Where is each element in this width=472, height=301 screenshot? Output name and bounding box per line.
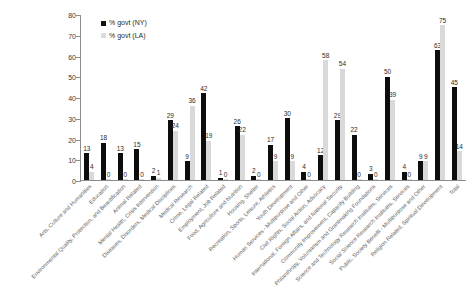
- bar-value-label: 42: [200, 86, 207, 93]
- bar-value-label: 2: [152, 168, 156, 175]
- category-label: Arts, Culture and Humanities: [39, 184, 94, 239]
- bar-ny: 22: [352, 135, 357, 180]
- y-tick-label: 60: [68, 53, 76, 60]
- bar-la: 0: [223, 179, 228, 180]
- bar-la: 9: [290, 161, 295, 180]
- bar-la: 19: [206, 141, 211, 180]
- bar-ny: 18: [101, 143, 106, 180]
- x-axis-line: [80, 180, 466, 181]
- bar-group: 179: [265, 15, 282, 180]
- bar-value-label: 1: [157, 170, 161, 177]
- bar-group: 10: [215, 15, 232, 180]
- bar-group: 4219: [198, 15, 215, 180]
- bar-value-label: 75: [439, 18, 446, 25]
- bar-group: 21: [148, 15, 165, 180]
- plot-area: 1341801301502129249364219102622201793094…: [81, 15, 465, 180]
- bar-value-label: 22: [239, 127, 246, 134]
- bar-la: 4: [89, 172, 94, 180]
- bar-value-label: 36: [188, 98, 195, 105]
- bar-group: 180: [98, 15, 115, 180]
- bar-value-label: 0: [107, 172, 111, 179]
- bar-value-label: 54: [339, 61, 346, 68]
- bar-value-label: 0: [123, 172, 127, 179]
- bar-value-label: 39: [389, 92, 396, 99]
- bar-value-label: 0: [357, 172, 361, 179]
- bar-group: 6375: [432, 15, 449, 180]
- bar-group: 220: [348, 15, 365, 180]
- bar-value-label: 9: [424, 154, 428, 161]
- bar-la: 0: [256, 179, 261, 180]
- bar-group: 130: [114, 15, 131, 180]
- bar-value-label: 29: [167, 113, 174, 120]
- bar-value-label: 1: [219, 170, 223, 177]
- bar-ny: 13: [118, 153, 123, 180]
- bar-value-label: 0: [224, 172, 228, 179]
- bar-group: 30: [365, 15, 382, 180]
- bar-group: 2954: [332, 15, 349, 180]
- bar-value-label: 9: [274, 154, 278, 161]
- bar-value-label: 3: [369, 166, 373, 173]
- category-axis-labels: Arts, Culture and HumanitiesEducationEnv…: [81, 182, 465, 300]
- bar-value-label: 4: [302, 164, 306, 171]
- bar-la: 22: [240, 135, 245, 180]
- bar-value-label: 45: [451, 80, 458, 87]
- bar-value-label: 19: [205, 133, 212, 140]
- bar-value-label: 17: [267, 137, 274, 144]
- category-label: Total: [448, 184, 460, 196]
- bar-value-label: 0: [257, 172, 261, 179]
- bar-value-label: 22: [350, 127, 357, 134]
- bar-la: 9: [273, 161, 278, 180]
- bar-group: 309: [281, 15, 298, 180]
- bar-value-label: 30: [284, 111, 291, 118]
- bar-group: 936: [181, 15, 198, 180]
- bar-la: 39: [390, 100, 395, 180]
- bar-la: 9: [423, 161, 428, 180]
- bar-value-label: 9: [290, 154, 294, 161]
- bar-group: 2622: [231, 15, 248, 180]
- bar-group: 4514: [448, 15, 465, 180]
- bar-value-label: 58: [322, 53, 329, 60]
- category-label-slot: Total: [448, 182, 465, 300]
- bar-la: 0: [139, 179, 144, 180]
- y-tick-label: 10: [68, 157, 76, 164]
- bar-la: 0: [123, 179, 128, 180]
- bar-la: 0: [306, 179, 311, 180]
- bar-value-label: 9: [419, 154, 423, 161]
- y-tick-label: 80: [68, 12, 76, 19]
- bar-group: 5039: [382, 15, 399, 180]
- bar-la: 75: [440, 25, 445, 180]
- bar-value-label: 4: [402, 164, 406, 171]
- bar-value-label: 13: [83, 146, 90, 153]
- y-tick-label: 70: [68, 32, 76, 39]
- y-tick-label: 50: [68, 74, 76, 81]
- bar-la: 0: [357, 179, 362, 180]
- bar-value-label: 14: [456, 144, 463, 151]
- bar-group: 40: [398, 15, 415, 180]
- bar-la: 0: [106, 179, 111, 180]
- bar-la: 0: [373, 179, 378, 180]
- y-tick-label: 0: [72, 178, 76, 185]
- y-tick-label: 40: [68, 95, 76, 102]
- bar-chart: 01020304050607080 % govt (NY) % govt (LA…: [0, 0, 472, 301]
- bar-la: 1: [156, 178, 161, 180]
- bar-value-label: 2: [252, 168, 256, 175]
- bar-groups: 1341801301502129249364219102622201793094…: [81, 15, 465, 180]
- bar-la: 36: [190, 106, 195, 180]
- bar-value-label: 50: [384, 69, 391, 76]
- bar-la: 54: [340, 69, 345, 180]
- bar-group: 2924: [165, 15, 182, 180]
- bar-value-label: 15: [133, 142, 140, 149]
- bar-group: 20: [248, 15, 265, 180]
- bar-ny: 15: [134, 149, 139, 180]
- bar-la: 58: [323, 60, 328, 180]
- bar-la: 24: [173, 131, 178, 181]
- bar-value-label: 0: [307, 172, 311, 179]
- bar-group: 150: [131, 15, 148, 180]
- y-tick-label: 30: [68, 115, 76, 122]
- bar-la: 14: [457, 151, 462, 180]
- bar-la: 0: [407, 179, 412, 180]
- bar-group: 134: [81, 15, 98, 180]
- bar-value-label: 4: [90, 164, 94, 171]
- bar-value-label: 18: [100, 135, 107, 142]
- bar-value-label: 0: [407, 172, 411, 179]
